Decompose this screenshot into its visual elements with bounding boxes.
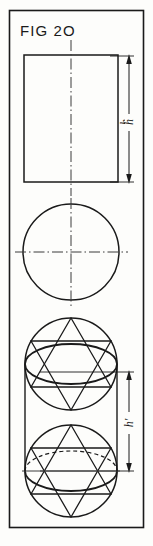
dimension-label-h-prime: h' bbox=[122, 418, 136, 427]
figure-page: FIG 2O h h bbox=[0, 0, 153, 546]
technical-drawing-svg: FIG 2O h h bbox=[0, 0, 153, 546]
dimension-label-h-text: h bbox=[122, 119, 136, 125]
figure-title: FIG 2O bbox=[20, 22, 76, 39]
